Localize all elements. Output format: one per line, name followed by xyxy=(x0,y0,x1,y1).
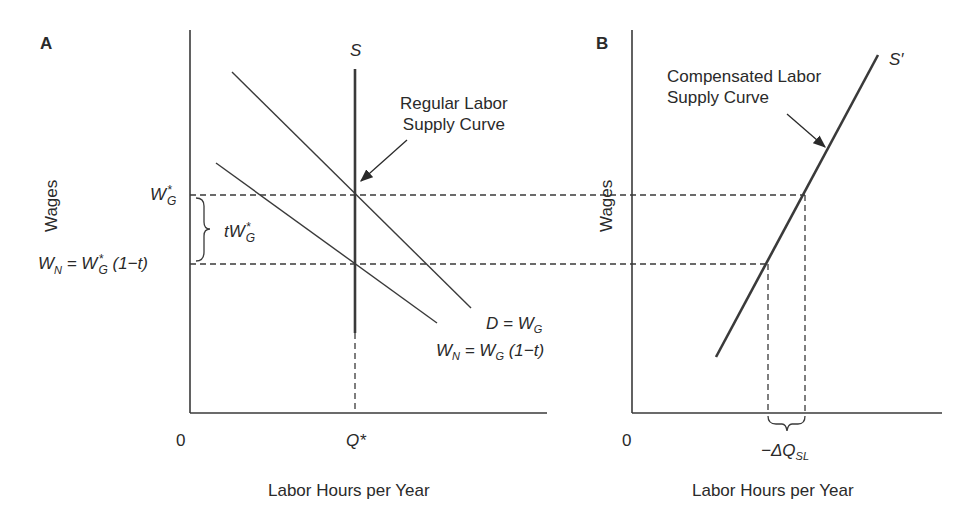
supply-s-label: S xyxy=(350,42,361,59)
panel-b-label: B xyxy=(596,34,608,54)
compensated-supply-annotation: Compensated LaborSupply Curve xyxy=(667,66,821,109)
panel-b-x-axis-label: Labor Hours per Year xyxy=(692,482,854,499)
panel-b-y-axis-label: Wages xyxy=(597,180,617,232)
supply-s-prime-label: S′ xyxy=(889,51,904,68)
net-demand-label: WN = WG (1−t) xyxy=(436,342,544,362)
dashed-guides xyxy=(190,195,805,413)
arrow-icon xyxy=(787,114,825,147)
wn-label: WN = W*G (1−t) xyxy=(38,254,148,276)
panel-a-y-axis-label: Wages xyxy=(42,180,62,232)
delta-q-label: −ΔQSL xyxy=(761,442,809,462)
tax-wedge-brace-icon xyxy=(196,198,210,261)
panel-a-origin: 0 xyxy=(176,432,185,449)
arrow-icon xyxy=(361,140,407,181)
panel-a-label: A xyxy=(40,34,52,54)
demand-label: D = WG xyxy=(486,315,542,335)
tax-wedge-label: tW*G xyxy=(224,222,255,244)
wg-star-label: W*G xyxy=(150,185,176,207)
q-star-label: Q* xyxy=(346,432,366,449)
delta-q-brace-icon xyxy=(768,416,805,431)
regular-supply-annotation: Regular LaborSupply Curve xyxy=(400,93,508,136)
panel-a-x-axis-label: Labor Hours per Year xyxy=(268,482,430,499)
panel-b-origin: 0 xyxy=(622,432,631,449)
